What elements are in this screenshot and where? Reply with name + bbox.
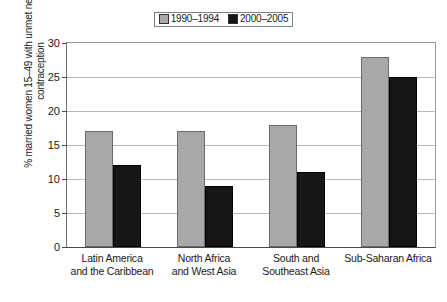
legend-label-2000-2005: 2000–2005: [240, 14, 288, 24]
y-tick-label: 10: [48, 173, 67, 185]
bar: [113, 165, 141, 247]
x-axis-labels: Latin Americaand the CaribbeanNorth Afri…: [66, 252, 434, 296]
y-tick-label: 20: [48, 105, 67, 117]
legend-entry-1990-1994: 1990–1994: [159, 14, 219, 24]
bar-groups: [67, 43, 435, 247]
bar: [177, 131, 205, 247]
x-axis-label: Sub-Saharan Africa: [331, 252, 445, 265]
legend-swatch-black-icon: [228, 14, 238, 24]
legend-box: 1990–1994 2000–2005: [154, 12, 294, 27]
bar: [85, 131, 113, 247]
x-axis-label-line: Southeast Asia: [239, 265, 353, 278]
legend-label-1990-1994: 1990–1994: [171, 14, 219, 24]
bar: [297, 172, 325, 247]
y-tick-label: 25: [48, 71, 67, 83]
bar-group: [67, 43, 159, 247]
bar: [269, 125, 297, 247]
plot-area: 051015202530: [66, 42, 436, 248]
bar: [389, 77, 417, 247]
legend-swatch-gray-icon: [159, 14, 169, 24]
bar-group: [343, 43, 435, 247]
bar-group: [159, 43, 251, 247]
legend-entry-2000-2005: 2000–2005: [228, 14, 288, 24]
x-axis-label-line: Sub-Saharan Africa: [331, 252, 445, 265]
y-tick-label: 5: [54, 207, 67, 219]
y-tick-label: 15: [48, 139, 67, 151]
bar: [205, 186, 233, 247]
y-tick-label: 30: [48, 37, 67, 49]
bar: [361, 57, 389, 247]
bar-group: [251, 43, 343, 247]
chart-legend: 1990–1994 2000–2005: [0, 12, 447, 27]
bar-chart: 1990–1994 2000–2005 % married women 15–4…: [0, 0, 447, 302]
